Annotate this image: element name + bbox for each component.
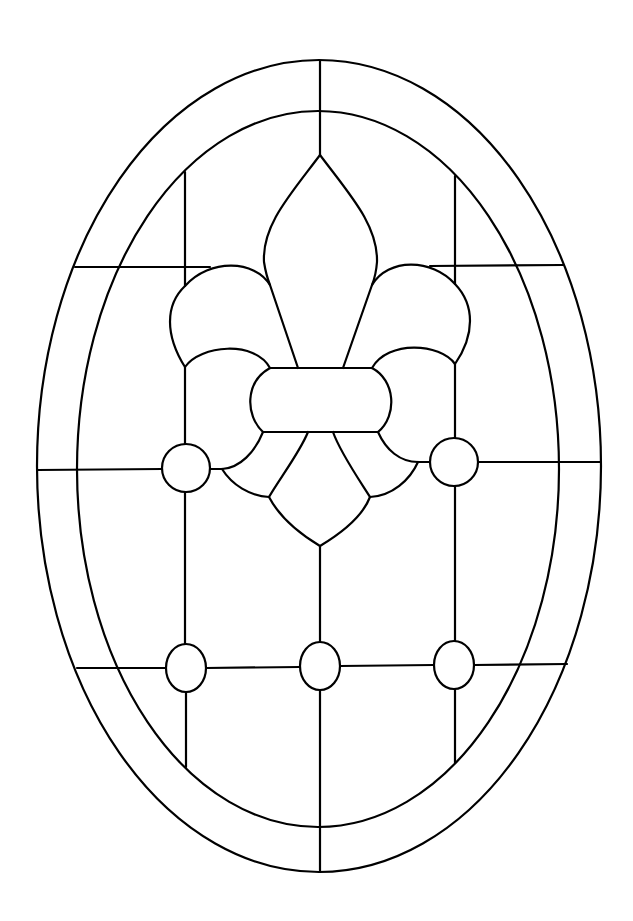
jewel-bottom-left [166, 644, 206, 692]
top-horizontal-right [430, 265, 563, 266]
bottom-horizontal-4 [474, 664, 567, 665]
center-band [250, 368, 391, 432]
middle-horizontal-left [38, 469, 162, 470]
right-lobe-lower [333, 432, 418, 497]
jewel-bottom-center [300, 642, 340, 690]
jewel-bottom-right [434, 641, 474, 689]
pattern-drawing [0, 0, 633, 921]
right-lobe-outer [378, 432, 418, 462]
jewel-middle-right [430, 438, 478, 486]
jewel-middle-left [162, 444, 210, 492]
bottom-lobe [269, 497, 370, 546]
center-petal [264, 155, 377, 368]
left-lobe-outer [222, 432, 263, 469]
stained-glass-pattern: Fleur-de-lis oval stained glass pattern [0, 0, 633, 921]
bottom-horizontal-2 [206, 667, 300, 668]
bottom-horizontal-3 [340, 665, 434, 666]
